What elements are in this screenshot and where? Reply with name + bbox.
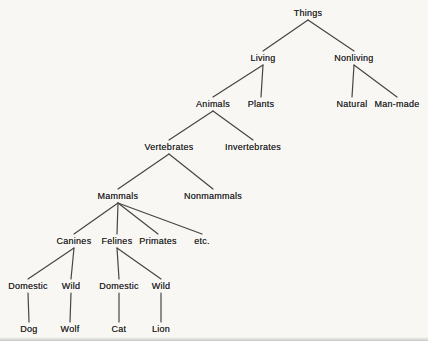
tree-edge-domestic-canines-dog (28, 293, 29, 322)
tree-edge-vertebrates-mammals (118, 154, 169, 189)
tree-node-lion: Lion (152, 325, 170, 334)
tree-node-canines: Canines (57, 237, 92, 246)
tree-edge-wild-canines-wolf (70, 293, 71, 322)
tree-node-primates: Primates (139, 237, 177, 246)
tree-node-animals: Animals (196, 100, 230, 109)
tree-node-domestic-canines: Domestic (8, 282, 48, 291)
tree-node-dog: Dog (20, 325, 37, 334)
tree-node-plants: Plants (248, 100, 275, 109)
tree-node-wild-canines: Wild (62, 282, 81, 291)
tree-edge-animals-invertebrates (213, 111, 253, 140)
tree-node-felines: Felines (102, 237, 133, 246)
tree-edge-mammals-canines (74, 203, 118, 234)
tree-edge-vertebrates-nonmammals (169, 154, 213, 189)
tree-node-cat: Cat (112, 325, 127, 334)
tree-node-nonmammals: Nonmammals (184, 192, 242, 201)
tree-edge-mammals-etc (118, 203, 202, 234)
tree-node-natural: Natural (337, 100, 368, 109)
tree-node-etc: etc. (194, 237, 210, 246)
tree-edge-animals-vertebrates (169, 111, 213, 140)
tree-node-domestic-felines: Domestic (99, 282, 139, 291)
tree-node-mammals: Mammals (98, 192, 139, 201)
tree-edge-canines-domestic-canines (28, 248, 74, 279)
tree-edge-mammals-felines (117, 203, 118, 234)
tree-edge-living-animals (213, 65, 263, 97)
tree-node-vertebrates: Vertebrates (145, 143, 194, 152)
tree-diagram: ThingsLivingNonlivingAnimalsPlantsNatura… (0, 0, 428, 341)
tree-edge-canines-wild-canines (71, 248, 74, 279)
tree-node-wolf: Wolf (61, 325, 80, 334)
tree-edge-felines-wild-felines (117, 248, 161, 279)
tree-node-things: Things (294, 9, 323, 18)
tree-edge-things-living (263, 20, 308, 51)
tree-edge-things-nonliving (308, 20, 354, 51)
tree-node-man-made: Man-made (374, 100, 419, 109)
tree-edge-nonliving-natural (352, 65, 354, 97)
tree-edge-living-plants (261, 65, 263, 97)
tree-edge-nonliving-man-made (354, 65, 397, 97)
tree-node-nonliving: Nonliving (334, 54, 373, 63)
tree-node-living: Living (250, 54, 275, 63)
tree-edge-felines-domestic-felines (117, 248, 119, 279)
tree-edge-mammals-primates (118, 203, 158, 234)
tree-node-wild-felines: Wild (152, 282, 171, 291)
tree-node-invertebrates: Invertebrates (225, 143, 281, 152)
